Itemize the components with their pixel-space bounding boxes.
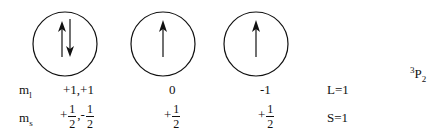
spin-up-arrow-icon (252, 20, 260, 57)
total-L: L=1 (327, 83, 349, 96)
total-S: S=1 (327, 111, 348, 124)
ml-row-label: ml (19, 83, 32, 96)
orbital-circle (33, 12, 97, 76)
fraction-half: 12 (172, 103, 180, 130)
ms-value-orbital-1: +12,-12 (60, 103, 95, 130)
spin-up-arrow-icon (159, 20, 167, 57)
ml-value-orbital-1: +1,+1 (63, 83, 94, 96)
spin-down-arrow-icon (66, 19, 74, 57)
ms-row-label: ms (19, 111, 33, 124)
term-symbol: 3P2 (410, 67, 426, 80)
ml-value-orbital-2: 0 (169, 83, 176, 96)
fraction-half: 12 (68, 103, 76, 130)
orbital-3 (224, 12, 288, 76)
spin-up-arrow-icon (58, 21, 66, 57)
ms-value-orbital-3: +12 (258, 103, 275, 130)
ms-value-orbital-2: +12 (164, 103, 181, 130)
orbital-1 (33, 12, 97, 76)
fraction-half: 12 (266, 103, 274, 130)
orbital-2 (131, 12, 195, 76)
ml-value-orbital-3: -1 (260, 83, 271, 96)
fraction-half: 12 (86, 103, 94, 130)
